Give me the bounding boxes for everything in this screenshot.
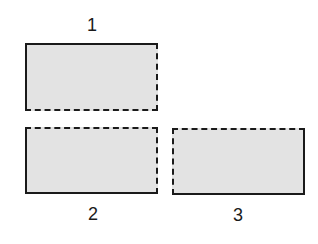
label-2: 2 — [88, 205, 98, 223]
label-3: 3 — [233, 206, 243, 224]
rectangle-2 — [25, 127, 158, 194]
rectangle-3 — [172, 128, 305, 195]
rectangle-1 — [25, 43, 158, 111]
label-1: 1 — [87, 16, 97, 34]
